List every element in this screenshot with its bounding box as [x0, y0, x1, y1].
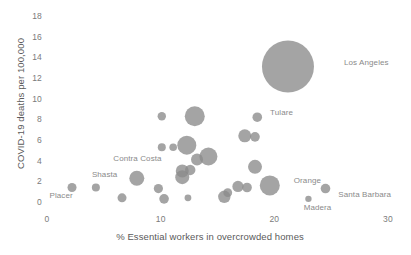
- bubble-label-placer: Placer: [50, 191, 73, 200]
- y-tick-label: 4: [24, 156, 42, 166]
- y-tick-label: 0: [24, 197, 42, 207]
- bubble-chart: 024681012141618 0102030 PlacerShastaCont…: [0, 0, 411, 255]
- y-tick-label: 10: [24, 94, 42, 104]
- bubble-label-los-angeles: Los Angeles: [344, 58, 389, 67]
- bubble-point: [185, 165, 195, 175]
- bubble-point: [158, 112, 166, 120]
- y-axis-title: COVID-19 deaths per 100,000: [15, 19, 26, 189]
- plot-area: [0, 0, 411, 255]
- bubble-point: [260, 175, 280, 195]
- bubble-point: [92, 184, 100, 192]
- y-tick-label: 18: [24, 11, 42, 21]
- bubble-point: [262, 41, 314, 93]
- bubble-point: [223, 188, 232, 197]
- bubble-point: [154, 184, 163, 193]
- bubble-point: [252, 112, 262, 122]
- y-tick-label: 12: [24, 73, 42, 83]
- bubble-point: [199, 148, 217, 166]
- bubble-point: [177, 136, 196, 155]
- bubble-point: [159, 194, 169, 204]
- y-tick-label: 6: [24, 135, 42, 145]
- bubble-point: [129, 171, 144, 186]
- bubble-point: [232, 181, 243, 192]
- y-tick-label: 16: [24, 32, 42, 42]
- bubble-point: [185, 194, 192, 201]
- bubble-label-tulare: Tulare: [270, 108, 293, 117]
- bubble-point: [305, 196, 311, 202]
- bubble-label-santa-barbara: Santa Barbara: [338, 190, 391, 199]
- x-tick-label: 0: [35, 214, 59, 224]
- bubble-point: [118, 193, 127, 202]
- bubble-point: [250, 132, 260, 142]
- y-tick-label: 8: [24, 114, 42, 124]
- bubble-label-shasta: Shasta: [92, 170, 118, 179]
- y-tick-label: 14: [24, 52, 42, 62]
- y-tick-label: 2: [24, 176, 42, 186]
- bubble-label-orange: Orange: [294, 176, 321, 185]
- bubble-series: [68, 41, 331, 204]
- bubble-point: [185, 106, 205, 126]
- x-axis-title: % Essential workers in overcrowded homes: [60, 231, 360, 242]
- bubble-point: [238, 129, 251, 142]
- x-tick-label: 20: [262, 214, 286, 224]
- bubble-point: [242, 183, 252, 193]
- bubble-point: [158, 143, 166, 151]
- bubble-label-contra-costa: Contra Costa: [113, 154, 161, 163]
- bubble-point: [248, 160, 262, 174]
- bubble-point: [321, 184, 331, 194]
- x-tick-label: 10: [149, 214, 173, 224]
- x-tick-label: 30: [376, 214, 400, 224]
- bubble-point: [169, 143, 177, 151]
- bubble-label-madera: Madera: [304, 203, 332, 212]
